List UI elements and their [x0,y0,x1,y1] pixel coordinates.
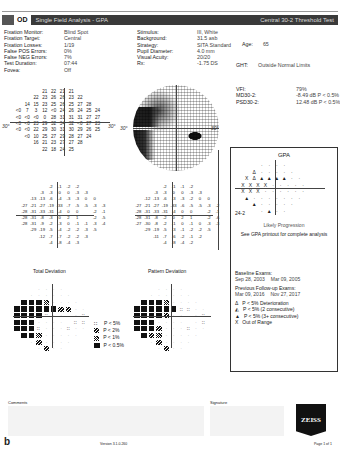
normal-dot-icon: · [53,300,54,305]
ght-value: Outside Normal Limits [258,62,310,68]
followup-date-1: Mar 09, 2016 [235,291,264,297]
p-lt-0.5-icon [29,333,35,338]
prob-cell [35,339,42,346]
normal-dot-icon: · [166,340,167,345]
prob-cell [43,299,50,306]
p-lt-2-icon [66,307,71,312]
legend-row: P < 1% [94,334,124,341]
normal-dot-icon: · [68,293,69,298]
p-lt-0.5-icon [134,306,140,311]
prob-cell: · [65,299,72,306]
normal-dot-icon: · [173,326,174,331]
info-value: 12.48 dB P < 0.5% [296,99,340,105]
p-lt-0.5-icon [21,306,27,311]
prob-cell: · [185,339,192,346]
grid-value: 25 [93,127,102,133]
grid-value: -8 [169,240,178,246]
prob-cell [65,306,72,313]
normal-dot-icon: · [180,340,181,345]
prob-cell: · [192,306,199,313]
normal-dot-icon: · [158,346,159,351]
prob-cell: · [163,293,170,300]
grid-value: -11 [152,234,161,240]
normal-dot-icon: · [75,326,76,331]
normal-dot-icon: · [75,307,76,312]
prob-cell: ∷ [177,306,184,313]
legend-label: P < 5% [104,320,120,327]
normal-dot-icon: · [75,300,76,305]
prob-cell [13,319,20,326]
left-degree-label: 30° [2,123,10,129]
normal-dot-icon: · [195,320,196,325]
grid-value: -27 [134,221,143,227]
prob-cell: ∷ [65,326,72,333]
grayscale-vertical-axis [176,85,177,171]
p-lt-0.5-icon [21,300,27,305]
p-lt-0.5-icon [141,326,147,331]
p-lt-0.5-icon [156,306,162,311]
prob-cell: · [28,293,35,300]
prob-cell [57,306,64,313]
prob-cell [155,299,162,306]
grid-value: -3 [82,234,91,240]
prob-cell [163,299,170,306]
prob-cell [28,299,35,306]
grid-value: 28 [76,140,85,146]
grid-value: <0 [23,134,32,140]
legend-label: P < 1% [103,334,119,341]
prob-row: ···· [130,299,210,306]
pdv-horizontal-axis [135,215,213,216]
normal-dot-icon: · [158,293,159,298]
p-lt-0.5-icon [36,306,42,311]
grid-row: -4-8-4-3 [16,240,112,246]
normal-dot-icon: · [46,333,47,338]
grid-value: 24 [84,134,93,140]
info-row: Rx:-1.75 DS [137,60,231,66]
p-lt-5-icon: ∷ [94,320,100,327]
prob-row: ···· [10,299,90,306]
prob-cell: · [43,319,50,326]
gpa-note: See GPA printout for complete analysis [231,231,337,237]
prob-cell: · [57,293,64,300]
grid-value: -5 [90,227,99,233]
prob-cell [185,319,192,326]
signature-field[interactable] [210,406,284,436]
normal-dot-icon: · [46,340,47,345]
prob-cell: · [80,326,87,333]
prob-row: ····· [10,339,90,346]
prob-cell: · [163,332,170,339]
prob-cell: · [80,306,87,313]
p-lt-5-icon: ∷ [37,326,40,331]
prob-cell [140,306,147,313]
global-indices: VFI:79%MD30-2:-8.49 dB P < 0.5%PSD30-2:1… [236,86,340,105]
prob-cell [155,339,162,346]
prob-cell [140,319,147,326]
prob-cell: · [35,319,42,326]
prob-cell [28,306,35,313]
grayscale-left-degree: 30° [120,125,128,131]
grid-value: 18 [49,147,58,153]
prob-cell [28,319,35,326]
info-value: Off [64,67,71,73]
triangle-filled-icon: ▲ [251,201,259,208]
stimulus-block: Stimulus:III, WhiteBackground:31.5 asbSt… [137,29,231,67]
gpa-horizontal-axis [235,188,325,189]
age-field: Age: 65 [242,41,269,47]
normal-dot-icon: · [173,287,174,292]
prob-cell: · [200,326,207,333]
pattern-deviation-title: Pattern Deviation [148,268,186,274]
grid-value: -2 [196,234,205,240]
prob-cell: · [177,286,184,293]
prob-cell: · [43,332,50,339]
comments-field[interactable] [8,406,204,436]
prob-cell: · [155,345,162,352]
info-row: PSD30-2:12.48 dB P < 0.5% [236,99,340,105]
grayscale-right-degree: 30° [211,125,219,131]
normal-dot-icon: · [60,333,61,338]
normal-dot-icon: · [68,333,69,338]
prob-row: ·····∷ [130,319,210,326]
normal-dot-icon: · [158,320,159,325]
normal-dot-icon: · [83,326,84,331]
prob-cell [148,326,155,333]
p-lt-0.5-icon [29,326,35,331]
